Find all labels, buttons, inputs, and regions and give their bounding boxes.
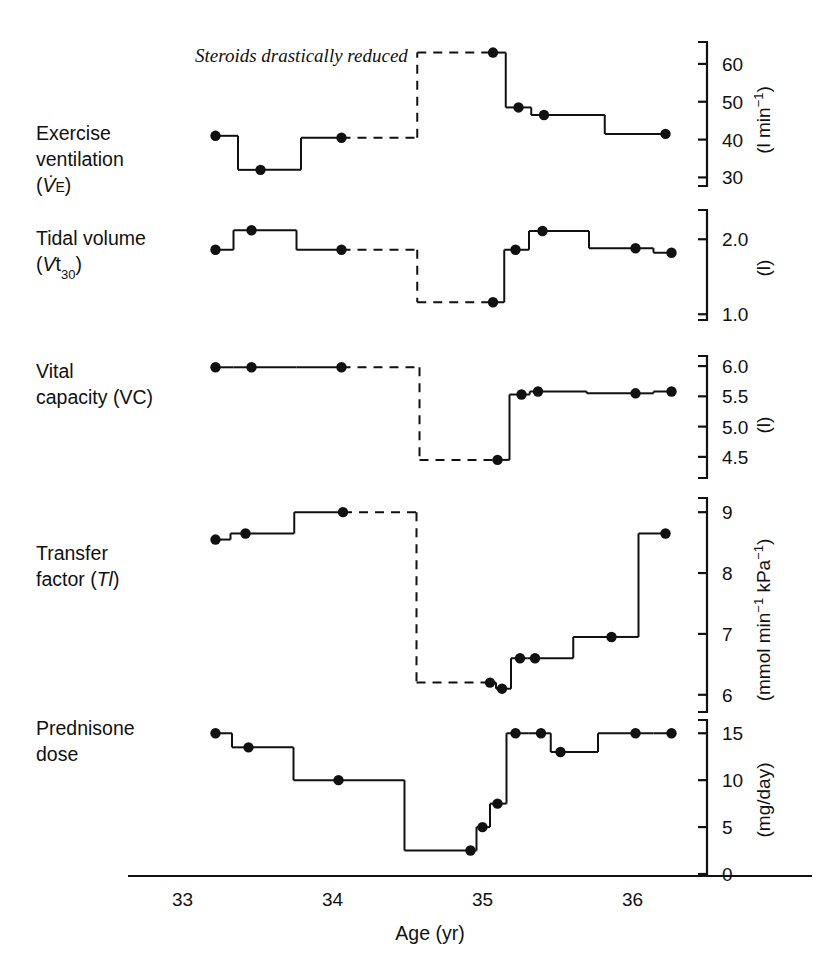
y-tick-label-vital_capacity-3: 6.0 xyxy=(722,356,748,377)
data-point xyxy=(477,822,487,832)
y-unit-label-exercise_ventilation: (l min−1) xyxy=(751,86,775,154)
y-tick-label-prednisone_dose-0: 0 xyxy=(722,864,733,885)
y-tick-label-tidal_volume-1: 2.0 xyxy=(722,229,748,250)
y-axis-spine-prednisone_dose xyxy=(698,720,707,876)
data-point xyxy=(530,653,540,663)
panel-label-transfer_factor: factor (Tl) xyxy=(36,568,119,590)
y-tick-label-transfer_factor-2: 8 xyxy=(722,563,733,584)
panel-tidal_volume: 1.02.0(l)Tidal volume(Vt30) xyxy=(36,210,774,325)
data-point xyxy=(513,102,523,112)
y-tick-label-prednisone_dose-1: 5 xyxy=(722,817,733,838)
data-point xyxy=(210,534,220,544)
data-point xyxy=(210,131,220,141)
data-point xyxy=(537,226,547,236)
panel-label-prednisone_dose: Prednisone xyxy=(36,717,135,739)
y-tick-label-vital_capacity-0: 4.5 xyxy=(722,447,748,468)
data-point xyxy=(515,653,525,663)
data-point xyxy=(488,47,498,57)
data-point xyxy=(240,528,250,538)
panel-vital_capacity: 4.55.05.56.0(l)Vitalcapacity (VC) xyxy=(36,356,774,478)
panel-label-tidal_volume: Tidal volume xyxy=(36,227,146,249)
data-point xyxy=(666,728,676,738)
y-tick-label-transfer_factor-0: 6 xyxy=(722,685,733,706)
data-point xyxy=(488,297,498,307)
data-point xyxy=(497,683,507,693)
data-point xyxy=(606,632,616,642)
panel-prednisone_dose: 051015(mg/day)Prednisonedose xyxy=(36,717,774,885)
figure-root: 30405060(l min−1)Exerciseventilation(V̇E… xyxy=(0,0,818,967)
panel-label-exercise_ventilation: Exercise xyxy=(36,122,111,144)
data-point xyxy=(336,245,346,255)
panel-label-transfer_factor: Transfer xyxy=(36,542,108,564)
y-axis-spine-tidal_volume xyxy=(698,210,707,320)
data-point xyxy=(465,845,475,855)
y-axis-spine-vital_capacity xyxy=(698,356,707,478)
data-point xyxy=(666,248,676,258)
panel-label-exercise_ventilation: ventilation xyxy=(36,148,124,170)
data-point xyxy=(630,728,640,738)
y-tick-label-transfer_factor-3: 9 xyxy=(722,502,733,523)
data-point xyxy=(492,455,502,465)
panel-transfer_factor: 6789(mmol min−1 kPa−1)Transferfactor (Tl… xyxy=(36,498,774,712)
x-tick-label-34: 34 xyxy=(322,889,344,910)
data-point xyxy=(338,507,348,517)
y-tick-label-transfer_factor-1: 7 xyxy=(722,624,733,645)
data-point xyxy=(660,129,670,139)
data-point xyxy=(255,165,265,175)
y-tick-label-exercise_ventilation-2: 50 xyxy=(722,92,743,113)
panel-label-vital_capacity: capacity (VC) xyxy=(36,386,153,408)
y-tick-label-prednisone_dose-2: 10 xyxy=(722,770,743,791)
data-point xyxy=(246,225,256,235)
panel-label-tidal_volume: (Vt30) xyxy=(36,253,82,282)
data-point xyxy=(333,775,343,785)
data-point xyxy=(510,728,520,738)
data-point xyxy=(492,798,502,808)
panel-label-exercise_ventilation: (V̇E) xyxy=(36,174,71,196)
y-unit-label-tidal_volume: (l) xyxy=(753,260,774,277)
data-point xyxy=(336,362,346,372)
y-tick-label-tidal_volume-0: 1.0 xyxy=(722,304,748,325)
respiratory-function-chart: 30405060(l min−1)Exerciseventilation(V̇E… xyxy=(0,0,818,967)
data-point xyxy=(210,245,220,255)
y-tick-label-vital_capacity-1: 5.0 xyxy=(722,417,748,438)
y-tick-label-exercise_ventilation-0: 30 xyxy=(722,167,743,188)
y-unit-label-vital_capacity: (l) xyxy=(753,417,774,434)
y-unit-label-transfer_factor: (mmol min−1 kPa−1) xyxy=(751,539,775,702)
data-point xyxy=(246,362,256,372)
x-tick-label-33: 33 xyxy=(172,889,193,910)
annotation-steroids-reduced: Steroids drastically reduced xyxy=(195,45,408,66)
data-point xyxy=(539,110,549,120)
data-point xyxy=(533,386,543,396)
y-axis-spine-transfer_factor xyxy=(698,498,707,712)
panel-label-prednisone_dose: dose xyxy=(36,743,78,765)
data-point xyxy=(516,389,526,399)
data-point xyxy=(630,388,640,398)
y-tick-label-prednisone_dose-3: 15 xyxy=(722,723,743,744)
data-point xyxy=(210,362,220,372)
panel-label-vital_capacity: Vital xyxy=(36,360,74,382)
x-tick-label-35: 35 xyxy=(472,889,493,910)
data-point xyxy=(536,728,546,738)
data-point xyxy=(336,133,346,143)
data-point xyxy=(243,742,253,752)
y-tick-label-exercise_ventilation-1: 40 xyxy=(722,130,743,151)
data-point xyxy=(510,245,520,255)
data-point xyxy=(660,528,670,538)
y-unit-label-prednisone_dose: (mg/day) xyxy=(753,763,774,838)
y-tick-label-exercise_ventilation-3: 60 xyxy=(722,54,743,75)
data-point xyxy=(666,386,676,396)
x-axis-label: Age (yr) xyxy=(395,922,464,944)
data-point xyxy=(630,243,640,253)
data-point xyxy=(485,677,495,687)
data-point xyxy=(555,747,565,757)
x-tick-label-36: 36 xyxy=(622,889,643,910)
y-tick-label-vital_capacity-2: 5.5 xyxy=(722,386,748,407)
data-point xyxy=(210,728,220,738)
